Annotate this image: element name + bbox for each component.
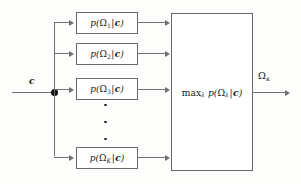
- probability-box-3-label: p(Ω3|c): [90, 84, 124, 94]
- probability-box-2[interactable]: p(Ω2|c): [76, 43, 138, 65]
- branch-2-feed-wire: [54, 53, 70, 54]
- branch-1-feed-arrow: [69, 20, 74, 26]
- branch-1-out-wire: [138, 22, 166, 23]
- branch-3-out-arrow: [165, 87, 170, 93]
- output-wire: [253, 92, 287, 93]
- branch-2-out-arrow: [165, 51, 170, 57]
- probability-box-k-label: p(ΩK|c): [90, 153, 124, 163]
- probability-box-2-label: p(Ω2|c): [90, 49, 124, 59]
- block-diagram-figure: c p(Ω1|c) p(Ω2|c) p(Ω3|c) p(ΩK|c) maxλ: [0, 0, 301, 184]
- branch-k-feed-arrow: [69, 155, 74, 161]
- branch-2-out-wire: [138, 53, 166, 54]
- probability-box-1-label: p(Ω1|c): [90, 18, 124, 28]
- probability-box-k[interactable]: p(ΩK|c): [76, 147, 138, 169]
- branch-1-out-arrow: [165, 20, 170, 26]
- branch-3-out-wire: [138, 89, 166, 90]
- output-label: Ωκ: [258, 70, 270, 81]
- branch-1-feed-wire: [54, 22, 70, 23]
- branch-k-feed-wire: [54, 157, 70, 158]
- probability-box-1[interactable]: p(Ω1|c): [76, 12, 138, 34]
- branch-k-out-arrow: [165, 155, 170, 161]
- vertical-ellipsis-icon: [101, 104, 110, 140]
- branch-2-feed-arrow: [69, 51, 74, 57]
- branch-3-feed-arrow: [69, 87, 74, 93]
- output-arrow: [285, 90, 290, 96]
- branch-3-feed-wire: [54, 89, 70, 90]
- probability-box-3[interactable]: p(Ω3|c): [76, 78, 138, 100]
- branch-k-out-wire: [138, 157, 166, 158]
- max-selector-block[interactable]: maxλ p(Ωλ|c): [171, 13, 253, 171]
- input-label-c: c: [29, 76, 34, 86]
- max-selector-label: maxλ p(Ωλ|c): [182, 87, 243, 98]
